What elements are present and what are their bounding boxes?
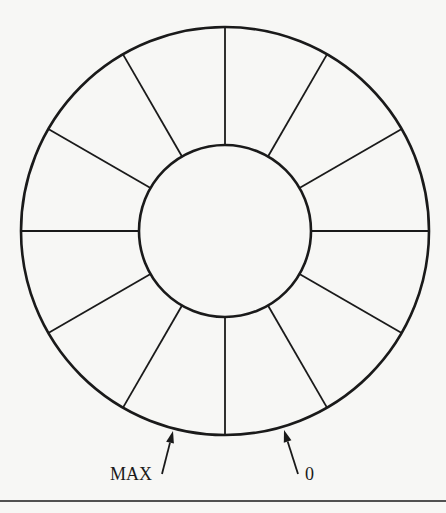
pointer-labels: MAX 0 [110,430,314,484]
segment-divider [268,305,327,407]
segment-divider [48,129,150,188]
max-pointer: MAX [110,431,174,484]
segment-divider [268,54,327,156]
zero-arrow-icon [288,441,298,474]
circular-buffer-diagram: MAX 0 [0,0,446,513]
max-arrowhead-icon [166,431,174,444]
segment-divider [48,274,150,333]
segment-dividers [21,27,429,435]
segment-divider [123,305,182,407]
zero-pointer: 0 [284,430,314,484]
zero-arrowhead-icon [284,430,292,443]
zero-label: 0 [305,464,314,484]
max-arrow-icon [162,443,170,474]
segment-divider [299,129,401,188]
inner-ring [139,145,311,317]
segment-divider [123,54,182,156]
max-label: MAX [110,464,152,484]
segment-divider [299,274,401,333]
